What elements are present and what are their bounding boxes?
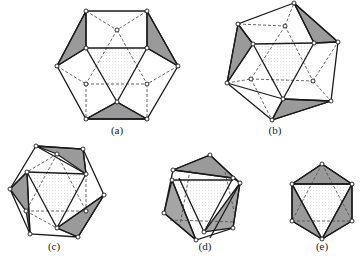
polyhedron-d	[162, 153, 242, 242]
polyhedron-e	[290, 162, 354, 241]
label-e: (e)	[316, 240, 328, 252]
polyhedra-diagram: (a) (b) (c) (d) (e)	[0, 0, 363, 260]
polyhedron-b	[225, 1, 340, 122]
label-c: (c)	[48, 240, 60, 252]
label-a: (a)	[111, 124, 123, 136]
polyhedron-a	[55, 9, 180, 121]
label-d: (d)	[199, 240, 212, 252]
diagram-svg	[0, 0, 363, 260]
polyhedron-c	[8, 144, 106, 239]
label-b: (b)	[269, 124, 282, 136]
